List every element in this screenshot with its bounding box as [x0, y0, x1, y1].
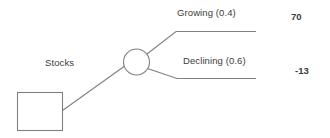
decision-tree-diagram: Stocks Growing (0.4) Declining (0.6) 70 … — [0, 0, 330, 138]
branch-label-declining: Declining (0.6) — [183, 55, 246, 66]
root-node-label: Stocks — [45, 57, 74, 68]
trunk-edge — [63, 67, 125, 111]
branch-label-growing: Growing (0.4) — [177, 7, 236, 18]
payoff-value-growing: 70 — [291, 11, 302, 22]
tree-graphics — [0, 0, 330, 138]
branch-edge-declining — [148, 69, 257, 79]
decision-square-node[interactable] — [18, 93, 63, 131]
payoff-value-declining: -13 — [295, 65, 309, 76]
chance-circle-node[interactable] — [124, 49, 150, 75]
branch-edge-growing — [147, 32, 256, 55]
